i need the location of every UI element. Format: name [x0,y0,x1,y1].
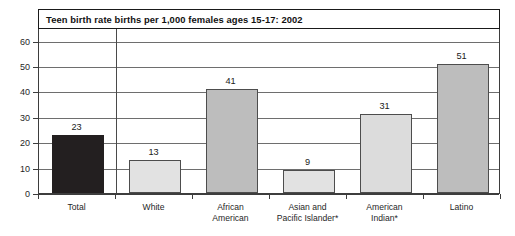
y-tick-mark-20 [33,143,38,144]
x-category-label: White [115,202,192,213]
bar-value-label: 9 [278,158,338,167]
x-tick-mark [423,194,424,199]
bar[interactable] [360,114,412,193]
x-tick-mark [38,194,39,199]
y-tick-mark-50 [33,67,38,68]
bar-value-label: 23 [47,123,107,132]
total-column-divider [116,29,117,193]
x-tick-mark [269,194,270,199]
x-tick-mark [500,194,501,199]
y-tick-label-60: 60 [0,37,30,46]
x-category-label: Latino [423,202,500,213]
y-tick-label-0: 0 [0,190,30,199]
bar-value-label: 41 [201,77,261,86]
bar-value-label: 13 [124,148,184,157]
y-tick-mark-40 [33,92,38,93]
x-category-label: African American [192,202,269,223]
y-tick-label-20: 20 [0,139,30,148]
chart-title-box: Teen birth rate births per 1,000 females… [38,9,500,29]
y-tick-label-40: 40 [0,88,30,97]
y-tick-mark-30 [33,118,38,119]
y-tick-label-10: 10 [0,164,30,173]
gridline-20 [39,143,499,144]
x-category-label: American Indian* [346,202,423,223]
gridline-50 [39,67,499,68]
gridline-40 [39,92,499,93]
y-tick-label-30: 30 [0,113,30,122]
bar-value-label: 51 [432,52,492,61]
gridline-30 [39,118,499,119]
x-category-label: Total [38,202,115,213]
y-tick-mark-10 [33,169,38,170]
bar[interactable] [283,170,335,193]
chart-title: Teen birth rate births per 1,000 females… [39,14,303,25]
x-tick-mark [115,194,116,199]
bar[interactable] [206,89,258,193]
gridline-60 [39,42,499,43]
y-tick-mark-60 [33,42,38,43]
bar[interactable] [437,64,489,193]
x-category-label: Asian and Pacific Islander* [269,202,346,223]
bar-chart-figure: Teen birth rate births per 1,000 females… [0,0,515,236]
gridline-10 [39,169,499,170]
bar[interactable] [52,135,104,193]
y-tick-label-50: 50 [0,63,30,72]
bar-value-label: 31 [355,102,415,111]
x-tick-mark [346,194,347,199]
x-tick-mark [192,194,193,199]
bar[interactable] [129,160,181,193]
